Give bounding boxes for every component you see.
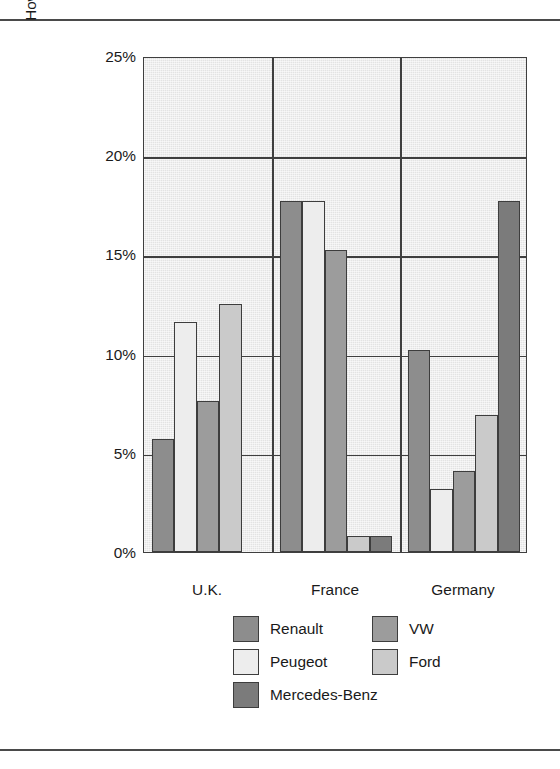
chart-legend: Renault VW Peugeot Ford Mercedes-Benz [233,612,473,711]
legend-item-ford: Ford [372,645,441,678]
legend-row-1: Renault VW [233,612,473,645]
y-tick-label-0: 0% [80,545,136,560]
y-axis-tick-labels: 0%5%10%15%20%25% [78,21,136,749]
x-tick-label-france: France [311,581,359,599]
bar-france-ford [347,536,369,552]
y-tick-label-15: 15% [80,248,136,263]
legend-swatch-renault [233,616,259,642]
bar-germany-renault [408,350,430,552]
plot-area [143,57,527,553]
bar-germany-ford [475,415,497,552]
legend-item-renault: Renault [233,612,323,645]
bar-france-renault [280,201,302,552]
legend-label-peugeot: Peugeot [270,653,327,671]
bar-u-k--vw [197,401,219,552]
legend-label-renault: Renault [270,620,323,638]
bar-u-k--peugeot [174,322,196,552]
bar-france-vw [325,250,347,552]
legend-swatch-vw [372,616,398,642]
bar-u-k--ford [219,304,241,552]
x-tick-label-germany: Germany [431,581,494,599]
legend-swatch-peugeot [233,649,259,675]
bottom-divider-rule [0,749,560,751]
y-axis-title-line-1: How European Consumers Rank Their [21,0,41,21]
x-tick-label-u-k-: U.K. [192,581,222,599]
y-tick-label-10: 10% [80,347,136,362]
legend-row-3: Mercedes-Benz [233,678,473,711]
bar-u-k--renault [152,439,174,552]
y-tick-label-5: 5% [80,446,136,461]
legend-label-mercedes-benz: Mercedes-Benz [270,686,378,704]
y-tick-label-25: 25% [80,49,136,64]
legend-swatch-ford [372,649,398,675]
bar-germany-mercedes-benz [498,201,520,552]
bar-france-mercedes-benz [370,536,392,552]
legend-item-mercedes-benz: Mercedes-Benz [233,678,378,711]
group-separator-2 [400,58,402,552]
group-separator-1 [272,58,274,552]
legend-label-vw: VW [409,620,434,638]
legend-label-ford: Ford [409,653,441,671]
y-axis-title: How European Consumers Rank Their Favori… [10,0,72,140]
bar-chart-figure: How European Consumers Rank Their Favori… [0,21,560,749]
gridline-20 [144,157,526,159]
bar-germany-peugeot [430,489,452,552]
legend-swatch-mercedes-benz [233,682,259,708]
legend-row-2: Peugeot Ford [233,645,473,678]
bar-germany-vw [453,471,475,552]
y-tick-label-20: 20% [80,148,136,163]
legend-item-vw: VW [372,612,434,645]
legend-item-peugeot: Peugeot [233,645,327,678]
bar-france-peugeot [302,201,324,552]
